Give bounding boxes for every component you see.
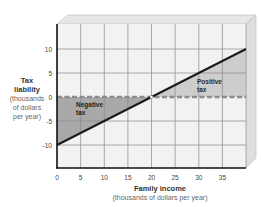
svg-text:Positive: Positive xyxy=(197,78,222,85)
y-axis-title-line: Tax xyxy=(0,76,54,85)
y-axis-units-line: of dollars xyxy=(0,103,54,112)
svg-text:Negative: Negative xyxy=(76,101,103,109)
x-tick: 20 xyxy=(148,174,156,181)
x-tick: 25 xyxy=(171,174,179,181)
svg-text:tax: tax xyxy=(76,109,86,116)
x-axis-title-line: Family income xyxy=(60,184,260,193)
svg-text:tax: tax xyxy=(197,86,207,93)
bevel-top-face xyxy=(57,15,256,24)
y-tick: -10 xyxy=(43,142,53,149)
y-axis-title: Tax liability (thousands of dollars per … xyxy=(0,76,54,121)
x-tick: 5 xyxy=(79,174,83,181)
x-tick: 30 xyxy=(195,174,203,181)
y-axis-units-line: per year) xyxy=(0,112,54,121)
x-tick: 0 xyxy=(55,174,59,181)
break-even-point xyxy=(150,95,153,98)
x-tick-labels: 0 5 10 15 20 25 30 35 xyxy=(55,174,226,181)
x-tick: 15 xyxy=(124,174,132,181)
x-tick: 35 xyxy=(219,174,227,181)
bevel-side-face xyxy=(246,15,256,168)
x-axis-title: Family income (thousands of dollars per … xyxy=(60,184,260,202)
y-axis-units-line: (thousands xyxy=(0,94,54,103)
y-tick: 10 xyxy=(45,46,53,53)
y-axis-title-line: liability xyxy=(0,85,54,94)
x-axis-units-line: (thousands of dollars per year) xyxy=(60,193,260,202)
x-tick: 10 xyxy=(101,174,109,181)
